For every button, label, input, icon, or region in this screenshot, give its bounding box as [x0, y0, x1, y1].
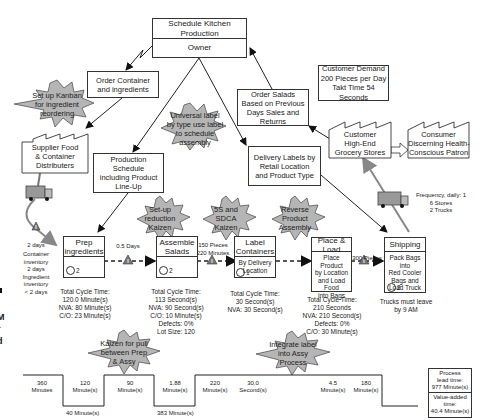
timeline-wait-6: 30.0Second(s)	[238, 380, 268, 394]
arrow-labels-to-shipping	[321, 175, 387, 232]
truck-icon-supplier	[26, 186, 52, 201]
operator-count: 2	[387, 283, 401, 292]
timeline-wait-5: 220Minute(s)	[200, 380, 230, 394]
process-data-label: Total Cycle Time:30 Second(s)NVA: 30 Sec…	[224, 290, 286, 314]
operator-icon	[236, 268, 245, 277]
caption-fragment: : M r d .	[0, 285, 5, 359]
kaizen-5s-text: 5S andSDCAKaizen	[206, 205, 246, 232]
inventory-label-2: 150 Pieces220 Minutes	[195, 242, 231, 257]
control-box: Schedule Kitchen Production Owner	[152, 18, 247, 58]
timeline-summary-box: Processlead time:977 Minute(s) Value-add…	[428, 368, 472, 418]
process-title: AssembleSalads	[157, 237, 197, 257]
process-data-prep: Total Cycle Time:120.0 Minute(s) NVA: 80…	[55, 288, 115, 320]
customer-demand-title: Customer Demand	[322, 64, 385, 74]
shipment-frequency-label: Frequency, daily: 16 Stores2 Trucks	[410, 192, 472, 215]
timeline-wait-7: 4.5Minute(s)	[318, 380, 348, 394]
production-schedule-box: Production Schedule including Product Li…	[93, 153, 164, 193]
timeline-value-1: 40 Minute(s)	[66, 409, 99, 417]
inventory-label-1: 0.5 Days	[110, 243, 146, 251]
supplier-inventory-label: Containerinventory 2 daysIngredient inve…	[14, 251, 58, 296]
kaizen-kanban-text: Set up Kanbanfor ingredientreordering	[26, 92, 88, 116]
timeline-wait-2: 120Minute(s)	[70, 380, 100, 394]
process-title: Prepingredients	[64, 237, 104, 257]
customer-label: CustomerHigh-EndGrocery Stores	[329, 130, 391, 157]
operator-icon	[387, 283, 396, 292]
process-title: LabelContainers	[235, 237, 275, 257]
consumer-label: ConsumerDiscerning Health-Conscious Patr…	[408, 130, 469, 157]
process-data-assemble: Total Cycle Time:113 Second(s) NVA: 90 S…	[146, 288, 206, 336]
arrow-supplier-to-prep	[26, 199, 56, 245]
customer-demand-takt: Takt Time 54 Seconds	[319, 83, 388, 102]
control-title: Schedule Kitchen Production	[153, 19, 246, 39]
kaizen-integrate-text: Integrate labelinto AssyProcess	[262, 340, 324, 367]
kaizen-universal-label-text: Universal labelby type use labelto sched…	[164, 112, 226, 146]
supplier-days-label: 2 days	[16, 242, 56, 250]
operator-count: 1	[236, 268, 250, 277]
customer-demand-pieces: 200 Pieces per Day	[321, 74, 386, 84]
order-container-box: Order Container and ingredients	[87, 71, 159, 98]
kaizen-pull-text: Kaizen for pullbetween Prep& Assy	[94, 339, 154, 366]
timeline-value-2: 383 Minute(s)	[157, 409, 194, 417]
control-owner: Owner	[188, 39, 212, 57]
operator-count: 2	[159, 266, 173, 275]
order-salads-box: Order Salads Based on Previous Days Sale…	[237, 89, 309, 126]
timeline-wait-1: 360Minutes	[27, 380, 57, 394]
timeline-wait-4: 1.88Minute(s)	[160, 380, 190, 394]
arrow-schedule-to-prep	[98, 193, 128, 232]
inventory-label-3: 300 Pieces	[352, 255, 382, 263]
process-title: Place & Load	[312, 238, 351, 252]
arrow-order-salads-to-control	[250, 48, 272, 89]
process-data-shipping: Trucks must leaveby 9 AM	[376, 298, 436, 314]
electronic-arrow-to-order-container	[126, 46, 152, 70]
process-title: Shipping	[385, 238, 425, 252]
arrow-customer-to-consumer	[391, 143, 408, 157]
operator-count: 2	[66, 266, 80, 275]
operator-icon	[66, 266, 75, 275]
customer-demand-box: Customer Demand 200 Pieces per Day Takt …	[318, 65, 389, 101]
arrow-customer-to-order-salads	[309, 126, 330, 139]
value-added-time: Value-addedtime:40.4 Minute(s)	[429, 393, 471, 416]
lead-time: Processlead time:977 Minute(s)	[429, 369, 471, 393]
process-place-and-load: Place & Load Place Productby Location an…	[311, 237, 352, 292]
kaizen-setup-text: Set-upreductionKaizen	[140, 205, 180, 232]
kaizen-reverse-text: ReverseProductAssembly	[275, 205, 315, 232]
timeline-wait-8: 180Minute(s)	[351, 380, 381, 394]
supplier-label: Supplier Food& ContainerDistributers	[22, 143, 88, 170]
timeline-wait-3: 90Minute(s)	[115, 380, 145, 394]
delivery-labels-box: Delivery Labels by Retail Location and P…	[248, 146, 321, 186]
operator-icon	[159, 266, 168, 275]
process-data-place-load: Total Cycle Time:210 Seconds NVA: 210 Se…	[301, 296, 363, 336]
process-description: Place Productby Location and Load Foodin…	[312, 252, 351, 299]
